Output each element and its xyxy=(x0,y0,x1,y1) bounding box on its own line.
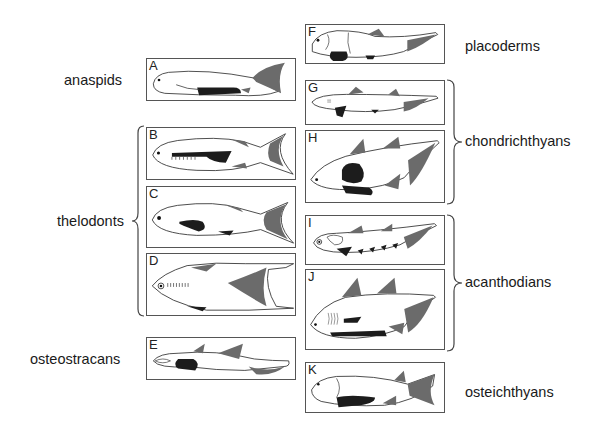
anaspid-fish-drawing xyxy=(147,59,295,100)
chondrichthyan-fish-drawing xyxy=(306,131,444,202)
group-label-osteostracans: osteostracans xyxy=(30,351,120,367)
osteostracan-fish-drawing xyxy=(147,338,295,379)
group-label-anaspids: anaspids xyxy=(64,72,122,88)
acanthodians-brace xyxy=(446,214,464,352)
panel-k-osteichthyan: K xyxy=(305,362,445,413)
panel-i-acanthodian: I xyxy=(305,215,445,265)
panel-f-placoderm: F xyxy=(305,24,445,64)
panel-j-acanthodian: J xyxy=(305,269,445,350)
acanthodian-fish-drawing xyxy=(306,270,444,349)
panel-a-anaspid: A xyxy=(146,58,296,101)
panel-b-thelodont: B xyxy=(146,127,296,180)
thelodont-fish-drawing xyxy=(147,187,295,247)
placoderm-fish-drawing xyxy=(306,25,444,63)
panel-d-thelodont: D xyxy=(146,253,296,316)
panel-h-chondrichthyan: H xyxy=(305,130,445,203)
chondrichthyan-fish-drawing xyxy=(306,81,444,124)
group-label-placoderms: placoderms xyxy=(465,38,540,54)
acanthodian-fish-drawing xyxy=(306,216,444,264)
panel-g-chondrichthyan: G xyxy=(305,80,445,125)
group-label-osteichthyans: osteichthyans xyxy=(465,384,554,400)
chondrichthyans-brace xyxy=(446,79,464,205)
group-label-acanthodians: acanthodians xyxy=(465,274,551,290)
panel-c-thelodont: C xyxy=(146,186,296,248)
group-label-thelodonts: thelodonts xyxy=(57,213,124,229)
panel-e-osteostracan: E xyxy=(146,337,296,380)
group-label-chondrichthyans: chondrichthyans xyxy=(465,133,571,149)
thelodont-fish-drawing xyxy=(147,128,295,179)
thelodonts-brace xyxy=(130,125,146,317)
thelodont-fish-drawing xyxy=(147,254,295,315)
osteichthyan-fish-drawing xyxy=(306,363,444,412)
